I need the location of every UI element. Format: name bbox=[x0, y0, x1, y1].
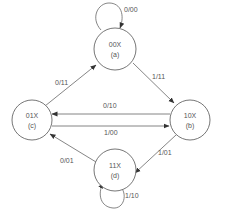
state-code: 01X bbox=[26, 112, 39, 119]
state-label: (b) bbox=[186, 122, 195, 130]
transition-label: 0/10 bbox=[103, 102, 117, 109]
transition-label: 0/00 bbox=[124, 6, 138, 13]
state-circle bbox=[12, 100, 52, 140]
state-label: (c) bbox=[28, 122, 36, 130]
state-code: 10X bbox=[184, 112, 197, 119]
state-label: (a) bbox=[111, 51, 120, 59]
state-b[interactable]: 10X (b) bbox=[170, 100, 210, 140]
state-circle bbox=[94, 149, 136, 191]
transition-a-a: 0/00 bbox=[96, 3, 138, 30]
transition-b-c: 0/10 bbox=[52, 102, 170, 114]
transition-label: 0/01 bbox=[60, 157, 74, 164]
state-circle bbox=[170, 100, 210, 140]
transition-c-b: 1/00 bbox=[52, 126, 169, 136]
state-diagram: 0/00 1/11 0/11 0/10 1/00 1/01 0/01 1/10 … bbox=[0, 0, 225, 218]
state-d[interactable]: 11X (d) bbox=[94, 149, 136, 191]
transition-label: 1/00 bbox=[104, 129, 118, 136]
transition-b-d: 1/01 bbox=[135, 135, 176, 173]
transition-d-c: 0/01 bbox=[50, 134, 96, 164]
transition-label: 1/11 bbox=[152, 73, 165, 80]
transition-label: 1/01 bbox=[158, 149, 172, 156]
transition-label: 0/11 bbox=[55, 79, 68, 86]
state-c[interactable]: 01X (c) bbox=[12, 100, 52, 140]
state-code: 11X bbox=[109, 162, 121, 169]
transition-c-a: 0/11 bbox=[45, 65, 96, 106]
transition-label: 1/10 bbox=[125, 192, 139, 199]
state-circle bbox=[94, 28, 136, 70]
state-code: 00X bbox=[109, 41, 122, 48]
state-label: (d) bbox=[111, 172, 120, 180]
state-a[interactable]: 00X (a) bbox=[94, 28, 136, 70]
transition-a-b: 1/11 bbox=[133, 63, 174, 103]
